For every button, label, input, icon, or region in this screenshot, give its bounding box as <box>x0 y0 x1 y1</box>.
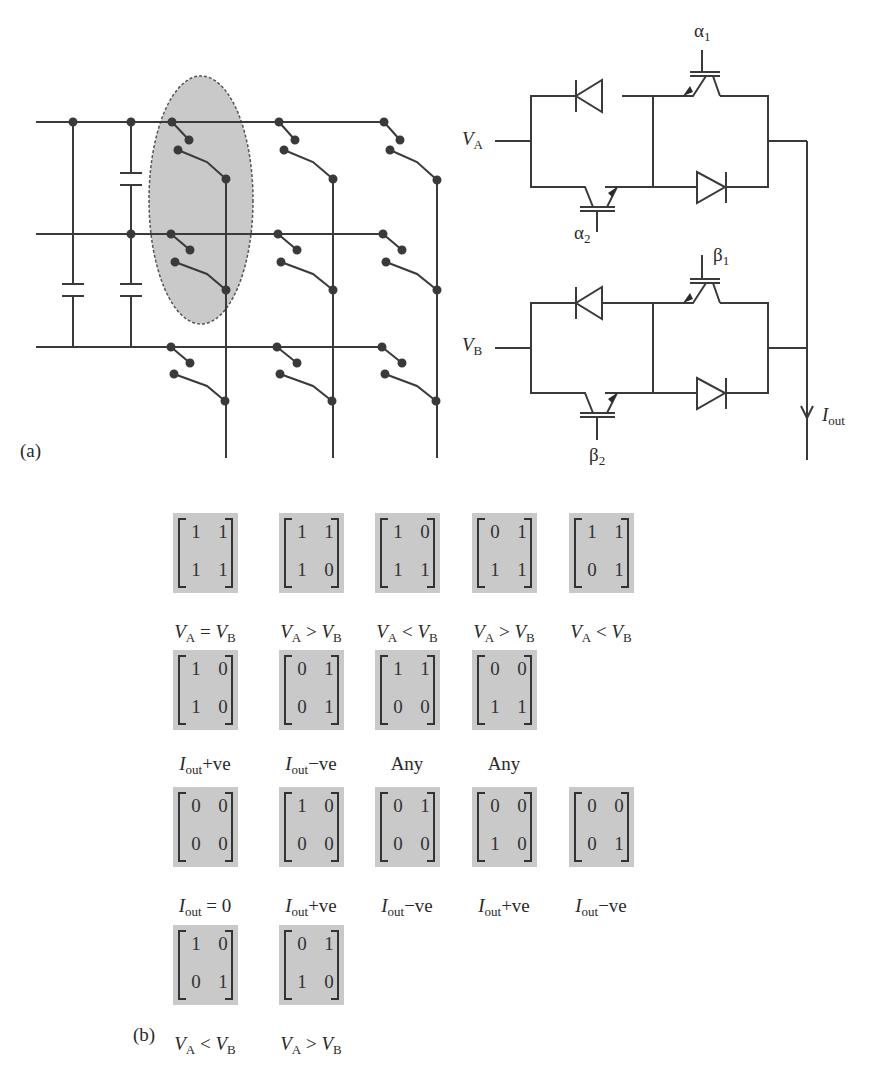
matrix-cell: 0 <box>292 933 312 955</box>
matrix-cell: 0 <box>292 833 312 855</box>
matrix-cell: 0 <box>186 971 206 993</box>
matrix-cell: 0 <box>415 521 435 543</box>
matrix-converter-grid <box>0 0 885 470</box>
matrix-condition-label: Iout+ve <box>145 753 265 778</box>
matrix-cell: 1 <box>388 658 408 680</box>
matrix-cell: 0 <box>213 933 233 955</box>
matrix-cell: 0 <box>213 658 233 680</box>
left-bracket <box>574 792 582 862</box>
matrix-cell: 1 <box>319 658 339 680</box>
matrix-condition-label: Iout = 0 <box>145 895 265 920</box>
matrix-condition-label: VA < VB <box>145 1033 265 1058</box>
matrix-cell: 1 <box>512 559 532 581</box>
state-matrix: 0100 <box>375 787 440 867</box>
matrix-cell: 1 <box>319 696 339 718</box>
gate-beta2-label: β2 <box>589 444 605 469</box>
state-matrix: 0101 <box>279 650 344 730</box>
left-bracket <box>178 518 186 588</box>
matrix-condition-label: VA > VB <box>251 1033 371 1058</box>
matrix-cell: 0 <box>319 971 339 993</box>
state-matrix: 1100 <box>375 650 440 730</box>
state-matrix: 1010 <box>173 650 238 730</box>
left-bracket <box>178 655 186 725</box>
matrix-cell: 1 <box>609 559 629 581</box>
gate-alpha2-label: α2 <box>574 222 590 247</box>
matrix-cell: 1 <box>485 833 505 855</box>
matrix-cell: 0 <box>512 795 532 817</box>
state-matrix: 0001 <box>569 787 634 867</box>
state-matrix: 0011 <box>472 650 537 730</box>
matrix-cell: 1 <box>415 559 435 581</box>
state-matrix: 0110 <box>279 925 344 1005</box>
matrix-cell: 0 <box>186 833 206 855</box>
matrix-cell: 0 <box>213 696 233 718</box>
matrix-cell: 1 <box>582 521 602 543</box>
matrix-cell: 1 <box>213 559 233 581</box>
matrix-cell: 1 <box>186 559 206 581</box>
left-bracket <box>284 792 292 862</box>
left-bracket <box>477 518 485 588</box>
left-bracket <box>178 792 186 862</box>
matrix-cell: 1 <box>512 521 532 543</box>
bidirectional-switch-circuit <box>495 50 813 460</box>
state-matrix: 1011 <box>375 513 440 593</box>
left-bracket <box>574 518 582 588</box>
matrix-cell: 0 <box>388 696 408 718</box>
matrix-cell: 0 <box>213 795 233 817</box>
matrix-cell: 0 <box>292 658 312 680</box>
panel-b-label: (b) <box>133 1024 155 1046</box>
matrix-cell: 0 <box>186 795 206 817</box>
matrix-cell: 1 <box>213 971 233 993</box>
matrix-cell: 0 <box>582 559 602 581</box>
matrix-cell: 0 <box>582 833 602 855</box>
matrix-cell: 0 <box>512 833 532 855</box>
matrix-condition-label: Iout−ve <box>541 895 661 920</box>
state-matrix: 1101 <box>569 513 634 593</box>
matrix-cell: 0 <box>319 833 339 855</box>
left-bracket <box>477 792 485 862</box>
state-matrix: 1111 <box>173 513 238 593</box>
input-vb-label: VB <box>462 334 482 359</box>
matrix-cell: 0 <box>415 696 435 718</box>
matrix-cell: 1 <box>388 521 408 543</box>
matrix-cell: 0 <box>319 795 339 817</box>
matrix-cell: 0 <box>485 521 505 543</box>
state-matrix: 1000 <box>279 787 344 867</box>
matrix-cell: 1 <box>292 559 312 581</box>
panel-a-label: (a) <box>20 440 41 462</box>
matrix-cell: 1 <box>415 658 435 680</box>
matrix-cell: 1 <box>213 521 233 543</box>
matrix-cell: 1 <box>292 971 312 993</box>
left-bracket <box>284 655 292 725</box>
state-matrix: 0000 <box>173 787 238 867</box>
matrix-cell: 1 <box>388 559 408 581</box>
matrix-cell: 0 <box>609 795 629 817</box>
matrix-cell: 1 <box>512 696 532 718</box>
input-va-label: VA <box>462 128 483 153</box>
matrix-cell: 0 <box>512 658 532 680</box>
matrix-cell: 0 <box>582 795 602 817</box>
output-current-label: Iout <box>822 404 845 429</box>
gate-beta1-label: β1 <box>713 244 729 269</box>
matrix-cell: 1 <box>319 933 339 955</box>
left-bracket <box>178 930 186 1000</box>
matrix-cell: 1 <box>485 696 505 718</box>
state-matrix: 1110 <box>279 513 344 593</box>
matrix-cell: 1 <box>609 521 629 543</box>
left-bracket <box>380 518 388 588</box>
matrix-cell: 1 <box>485 559 505 581</box>
matrix-cell: 1 <box>186 521 206 543</box>
left-bracket <box>284 930 292 1000</box>
matrix-cell: 0 <box>388 795 408 817</box>
matrix-cell: 1 <box>292 795 312 817</box>
left-bracket <box>380 655 388 725</box>
matrix-cell: 1 <box>319 521 339 543</box>
state-matrix: 0010 <box>472 787 537 867</box>
matrix-cell: 1 <box>186 933 206 955</box>
matrix-cell: 0 <box>388 833 408 855</box>
matrix-cell: 0 <box>292 696 312 718</box>
state-matrix: 1001 <box>173 925 238 1005</box>
matrix-cell: 0 <box>415 833 435 855</box>
left-bracket <box>284 518 292 588</box>
matrix-cell: 1 <box>292 521 312 543</box>
